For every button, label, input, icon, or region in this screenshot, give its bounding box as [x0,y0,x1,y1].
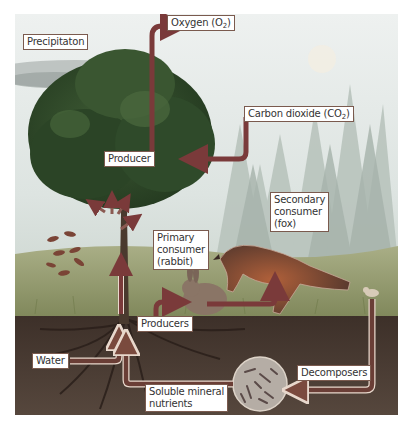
label-producers: Producers [137,316,193,332]
label-precipitation: Precipitaton [23,34,88,50]
label-decomposers: Decomposers [297,365,371,381]
label-oxygen: Oxygen (O2) [167,15,235,31]
ecosystem-illustration [15,14,398,415]
ecosystem-diagram: Precipitaton Oxygen (O2) Carbon dioxide … [15,14,398,415]
label-producer: Producer [104,151,155,167]
label-primary-consumer: Primary consumer (rabbit) [153,230,209,270]
label-carbon-dioxide: Carbon dioxide (CO2) [244,106,354,122]
decomposers-circle [233,357,287,411]
label-secondary-consumer: Secondary consumer (fox) [270,192,329,232]
label-water: Water [32,353,69,369]
label-soluble-mineral-nutrients: Soluble mineral nutrients [145,384,228,412]
